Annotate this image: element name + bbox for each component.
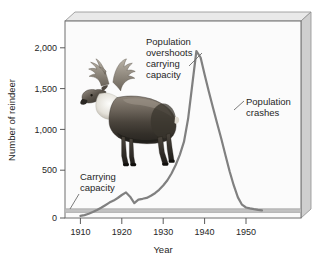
x-tick-label: 1920 [112,227,132,237]
y-tick-label: 500 [42,165,57,175]
x-tick-label: 1930 [153,227,173,237]
annotation-overshoot-line: capacity [146,69,181,80]
plot-box-right-face [301,12,311,218]
annotation-crash-line: crashes [246,107,280,118]
annotation-overshoot-line: overshoots [146,47,193,58]
x-tick-label: 1910 [70,227,90,237]
reindeer-population-figure: 2,000 1,500 1,000 500 0 Number of reinde… [0,0,323,267]
x-axis-tick-labels: 1910 1920 1930 1940 1950 [70,227,256,237]
y-tick-label: 0 [52,213,57,223]
population-line-chart: 2,000 1,500 1,000 500 0 Number of reinde… [0,0,323,267]
annotation-carrying-capacity-line: capacity [80,182,115,193]
y-axis-title: Number of reindeer [6,79,17,161]
carrying-capacity-line [66,209,301,213]
annotation-overshoot-line: Population [146,36,191,47]
x-tick-label: 1950 [236,227,256,237]
y-axis-ticks [60,48,65,218]
x-axis-title: Year [153,244,172,255]
y-tick-label: 1,500 [34,84,57,94]
x-axis-ticks [80,218,246,224]
annotation-carrying-capacity-line: Carrying [80,171,116,182]
annotation-overshoot-line: carrying [146,58,180,69]
x-tick-label: 1940 [195,227,215,237]
y-tick-label: 2,000 [34,43,57,53]
y-axis-tick-labels: 2,000 1,500 1,000 500 0 [34,43,57,223]
annotation-crash-line: Population [246,96,291,107]
plot-box-top-face [65,12,311,21]
y-tick-label: 1,000 [34,125,57,135]
